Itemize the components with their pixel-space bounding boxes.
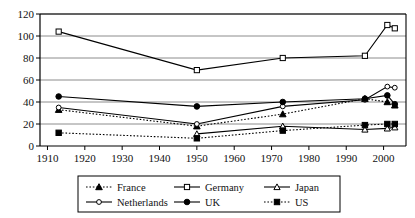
- legend-label: US: [295, 197, 309, 208]
- legend-marker: [97, 200, 102, 205]
- x-tick-label: 1920: [74, 152, 97, 164]
- data-point-marker: [385, 93, 391, 99]
- y-tick-label: 120: [18, 8, 35, 20]
- data-point-marker: [362, 53, 367, 58]
- x-tick-label: 1950: [186, 152, 209, 164]
- legend-label: Netherlands: [117, 197, 168, 208]
- data-point-marker: [194, 104, 200, 110]
- x-tick-label: 1910: [36, 152, 59, 164]
- data-point-marker: [392, 101, 398, 107]
- x-tick-label: 2000: [373, 152, 396, 164]
- chart-legend: FranceGermanyJapanNetherlandsUKUS: [78, 176, 340, 212]
- data-point-marker: [392, 85, 397, 90]
- y-tick-label: 0: [29, 140, 35, 152]
- chart-canvas: 020406080100120 191019201930194019501960…: [0, 0, 415, 218]
- data-point-marker: [392, 26, 397, 31]
- data-point-marker: [362, 122, 367, 127]
- line-chart: 020406080100120 191019201930194019501960…: [0, 0, 415, 218]
- y-tick-label: 60: [23, 74, 35, 86]
- y-tick-label: 100: [18, 30, 35, 42]
- data-point-marker: [194, 122, 199, 127]
- x-tick-label: 1990: [335, 152, 358, 164]
- x-tick-label: 1970: [261, 152, 284, 164]
- data-point-marker: [56, 105, 61, 110]
- data-point-marker: [194, 68, 199, 73]
- x-tick-label: 1930: [111, 152, 134, 164]
- x-tick-label: 1980: [298, 152, 321, 164]
- legend-marker: [184, 199, 190, 205]
- data-point-marker: [56, 29, 61, 34]
- data-point-marker: [280, 128, 285, 133]
- legend-marker: [184, 184, 189, 189]
- data-point-marker: [385, 121, 390, 126]
- y-tick-label: 80: [23, 52, 35, 64]
- data-point-marker: [56, 130, 61, 135]
- legend-label: Japan: [295, 182, 320, 193]
- legend-marker: [274, 199, 279, 204]
- y-tick-label: 40: [23, 96, 35, 108]
- data-point-marker: [194, 136, 199, 141]
- legend-label: UK: [205, 197, 221, 208]
- legend-label: France: [117, 182, 146, 193]
- data-point-marker: [385, 84, 390, 89]
- x-tick-label: 1960: [223, 152, 246, 164]
- data-point-marker: [56, 94, 62, 100]
- data-point-marker: [385, 22, 390, 27]
- legend-label: Germany: [205, 182, 245, 193]
- data-point-marker: [280, 99, 286, 105]
- data-point-marker: [362, 96, 368, 102]
- data-point-marker: [280, 55, 285, 60]
- x-tick-label: 1940: [149, 152, 172, 164]
- data-point-marker: [392, 121, 397, 126]
- y-tick-label: 20: [23, 118, 35, 130]
